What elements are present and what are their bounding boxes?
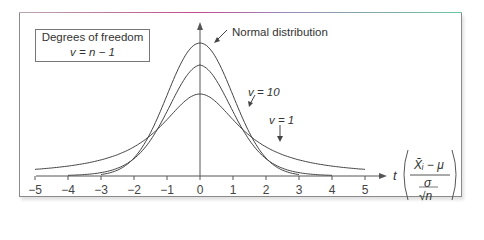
legend-box: Degrees of freedom v = n − 1 — [35, 29, 150, 62]
formula-sigma: σ — [424, 176, 431, 190]
x-tick-label: 3 — [296, 183, 303, 197]
label-v1: v = 1 — [269, 114, 294, 126]
formula-numerator: X̄ᵢ − μ — [414, 158, 444, 172]
x-tick-label: 2 — [263, 183, 270, 197]
formula-sqrt-n: √n — [419, 189, 432, 203]
x-tick-label: −5 — [28, 183, 42, 197]
label-v10: v = 10 — [248, 86, 280, 98]
x-tick-label: 4 — [329, 183, 336, 197]
x-tick-label: 0 — [197, 183, 204, 197]
x-tick-label: 5 — [362, 183, 369, 197]
x-axis-label: t — [393, 168, 397, 183]
x-tick-label: −2 — [127, 183, 141, 197]
legend-title: Degrees of freedom — [36, 30, 149, 45]
x-tick-label: −4 — [61, 183, 75, 197]
legend-formula: v = n − 1 — [36, 45, 149, 60]
x-tick-label: 1 — [230, 183, 237, 197]
x-tick-label: −3 — [94, 183, 108, 197]
x-tick-label: −1 — [160, 183, 174, 197]
label-normal: Normal distribution — [232, 26, 328, 38]
